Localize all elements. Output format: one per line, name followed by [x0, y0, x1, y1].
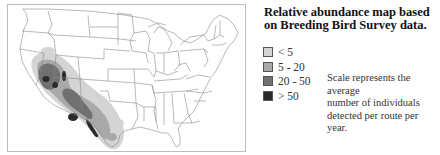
legend-label: < 5 [278, 46, 293, 58]
abundance-legend: < 5 5 - 20 20 - 50 > 50 [263, 45, 311, 103]
scale-note-line-2: number of individuals [327, 97, 440, 110]
legend-item-lt5: < 5 [263, 45, 311, 60]
legend-item-gt50: > 50 [263, 89, 311, 104]
legend-item-5-20: 5 - 20 [263, 60, 311, 75]
legend-swatch-20-50 [263, 76, 273, 86]
legend-swatch-lt5 [263, 47, 273, 57]
legend-label: 5 - 20 [278, 61, 305, 73]
legend-label: 20 - 50 [278, 75, 311, 87]
scale-note-line-1: Scale represents the average [327, 72, 440, 97]
abundance-map [7, 4, 246, 152]
scale-note-line-3: detected per route per year. [327, 110, 440, 135]
us-map-svg [8, 5, 247, 153]
legend-label: > 50 [278, 90, 299, 102]
legend-swatch-gt50 [263, 91, 273, 101]
legend-swatch-5-20 [263, 62, 273, 72]
scale-note: Scale represents the average number of i… [327, 72, 440, 135]
map-title-line-2: on Breeding Bird Survey data. [264, 19, 440, 32]
legend-item-20-50: 20 - 50 [263, 74, 311, 89]
map-title: Relative abundance map based on Breeding… [264, 6, 440, 32]
